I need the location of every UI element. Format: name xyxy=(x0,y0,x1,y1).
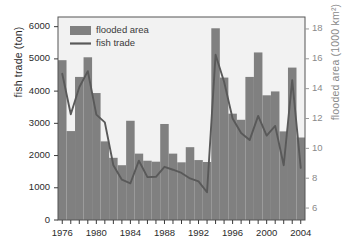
y-axis-right-title: flooded area (1000 km²) xyxy=(329,0,341,147)
y-axis-left-tick-label: 1000 xyxy=(0,181,50,192)
bar-1998 xyxy=(245,77,254,220)
y-axis-left-ticks xyxy=(54,27,58,220)
bar-1996 xyxy=(228,114,237,220)
bar-1989 xyxy=(169,154,178,220)
bar-1988 xyxy=(160,124,169,220)
bar-1984 xyxy=(126,121,135,220)
chart-plot-area xyxy=(0,0,355,249)
x-axis-tick-label: 2004 xyxy=(281,227,321,238)
bar-1982 xyxy=(109,158,118,220)
y-axis-right-tick-label: 14 xyxy=(312,82,323,93)
y-axis-right-ticks xyxy=(305,29,309,208)
y-axis-right-tick-label: 6 xyxy=(312,202,317,213)
y-axis-left-tick-label: 4000 xyxy=(0,85,50,96)
bar-1987 xyxy=(152,162,161,220)
y-axis-left-tick-label: 5000 xyxy=(0,52,50,63)
y-axis-left-tick-label: 6000 xyxy=(0,20,50,31)
bar-1977 xyxy=(67,131,76,220)
legend-swatch-flooded-area xyxy=(70,26,91,35)
bar-1985 xyxy=(135,154,144,220)
legend-label-fish-trade: fish trade xyxy=(96,37,135,48)
y-axis-left-tick-label: 3000 xyxy=(0,117,50,128)
bar-2003 xyxy=(288,68,297,220)
bar-1992 xyxy=(194,160,203,220)
bar-1981 xyxy=(101,141,110,220)
bar-1999 xyxy=(254,52,263,220)
bar-1995 xyxy=(220,78,229,220)
legend-label-flooded-area: flooded area xyxy=(96,24,149,35)
y-axis-left-tick-label: 0 xyxy=(0,214,50,225)
chart-figure: fish trade (ton) flooded area (1000 km²)… xyxy=(0,0,355,249)
bar-2000 xyxy=(262,95,271,220)
y-axis-right-tick-label: 8 xyxy=(312,172,317,183)
y-axis-right-tick-label: 18 xyxy=(312,22,323,33)
bar-2004 xyxy=(296,138,305,220)
x-axis-ticks xyxy=(62,220,300,224)
y-axis-right-tick-label: 16 xyxy=(312,52,323,63)
bar-1991 xyxy=(186,147,195,220)
y-axis-left-tick-label: 2000 xyxy=(0,149,50,160)
y-axis-right-tick-label: 10 xyxy=(312,142,323,153)
bar-2001 xyxy=(271,91,280,220)
y-axis-right-tick-label: 12 xyxy=(312,112,323,123)
